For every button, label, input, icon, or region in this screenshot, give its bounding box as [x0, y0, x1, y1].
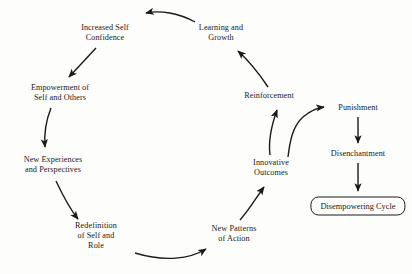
node-line: New Patterns [212, 224, 257, 234]
node-disenchantment: Disenchantment [331, 149, 385, 159]
node-line: Disempowering Cycle [320, 201, 395, 210]
edge-redefinition-to-new-patterns [135, 249, 206, 258]
edge-empowerment-to-new-experiences [45, 108, 51, 147]
node-line: Self and Others [31, 93, 89, 103]
edge-learning-to-confidence [146, 12, 195, 22]
node-increased-self-confidence: Increased Self Confidence [81, 23, 129, 43]
cycle-diagram: Increased Self Confidence Learning and G… [0, 0, 412, 274]
node-line: and Perspectives [24, 165, 83, 175]
node-line: Confidence [81, 33, 129, 43]
node-line: Disenchantment [331, 149, 385, 159]
node-line: Learning and [199, 23, 243, 33]
node-innovative-outcomes: Innovative Outcomes [253, 158, 289, 178]
node-redefinition-of-self-and-role: Redefinition of Self and Role [75, 221, 117, 252]
node-line: Growth [199, 33, 243, 43]
node-new-patterns-of-action: New Patterns of Action [212, 224, 257, 244]
node-punishment: Punishment [338, 103, 377, 113]
node-disempowering-cycle: Disempowering Cycle [310, 197, 405, 216]
edge-innovative-outcomes-to-reinforcement [269, 110, 277, 155]
node-new-experiences-and-perspectives: New Experiences and Perspectives [24, 155, 83, 175]
node-reinforcement: Reinforcement [244, 91, 294, 101]
node-line: Innovative [253, 158, 289, 168]
node-line: of Self and [75, 231, 117, 241]
node-line: Increased Self [81, 23, 129, 33]
node-line: Empowerment of [31, 83, 89, 93]
node-line: New Experiences [24, 155, 83, 165]
node-learning-and-growth: Learning and Growth [199, 23, 243, 43]
edge-confidence-to-empowerment [69, 48, 96, 77]
node-empowerment-of-self-and-others: Empowerment of Self and Others [31, 83, 89, 103]
edge-innovative-outcomes-to-punishment [288, 107, 324, 157]
node-line: Reinforcement [244, 91, 294, 101]
node-line: Redefinition [75, 221, 117, 231]
node-line: Outcomes [253, 168, 289, 178]
node-line: Role [75, 241, 117, 251]
edge-new-patterns-to-innovative-outcomes [240, 187, 264, 220]
edge-reinforcement-to-learning [238, 51, 268, 87]
edge-new-experiences-to-redefinition [56, 181, 78, 219]
node-line: of Action [212, 234, 257, 244]
node-line: Punishment [338, 103, 377, 113]
